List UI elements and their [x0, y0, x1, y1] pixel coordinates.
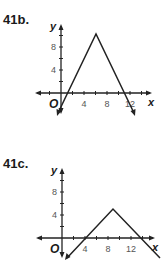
x-tick-8: 8 [104, 99, 109, 109]
y-axis-label: y [50, 164, 58, 176]
origin-label: O [49, 97, 59, 111]
graph-41c-svg: 4 8 12 4 8 y x O [0, 140, 163, 280]
graph-41b: 4 8 12 4 8 y x O [0, 0, 163, 140]
function-line [58, 34, 134, 113]
x-axis-label: x [151, 241, 159, 253]
x-tick-12: 12 [126, 244, 136, 254]
y-tick-8: 8 [51, 42, 56, 52]
y-axis-label: y [49, 20, 57, 32]
x-tick-4: 4 [81, 99, 86, 109]
x-axis-label: x [147, 96, 155, 108]
x-tick-8: 8 [105, 244, 110, 254]
y-tick-4: 4 [52, 210, 57, 220]
origin-label: O [50, 242, 60, 256]
y-tick-8: 8 [52, 187, 57, 197]
function-line [67, 209, 160, 258]
x-tick-4: 4 [82, 244, 87, 254]
graph-41b-svg: 4 8 12 4 8 y x O [0, 0, 163, 140]
y-tick-4: 4 [51, 65, 56, 75]
graph-41c: 4 8 12 4 8 y x O [0, 140, 163, 280]
